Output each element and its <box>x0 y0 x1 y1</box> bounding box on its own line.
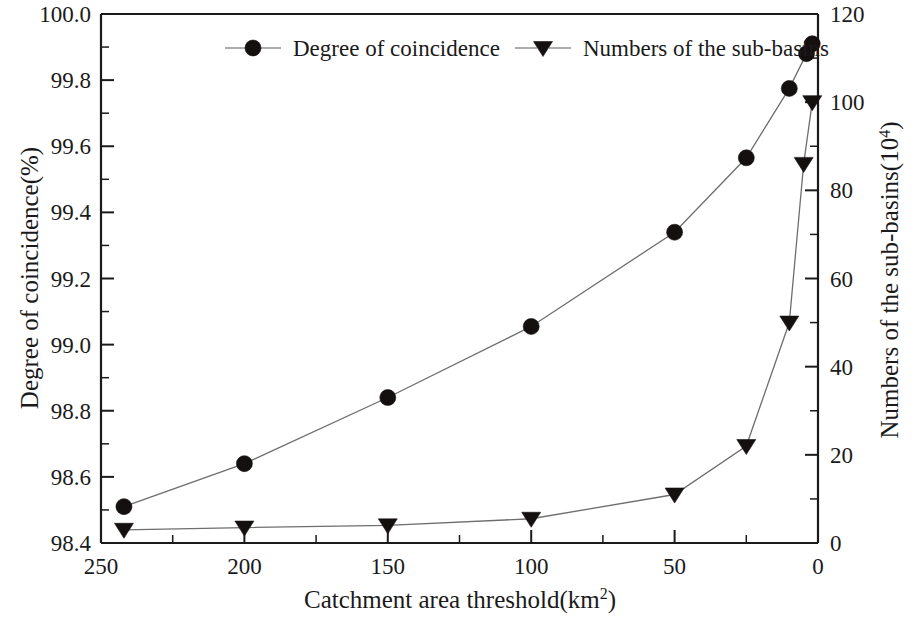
left-tick-label: 98.8 <box>51 399 91 424</box>
legend-label: Degree of coincidence <box>293 36 500 61</box>
x-axis-title: Catchment area threshold(km2) <box>304 585 616 614</box>
left-tick-label: 99.4 <box>51 200 92 225</box>
series-line <box>124 44 812 507</box>
data-point-triangle-down <box>522 512 541 527</box>
data-point-circle <box>380 390 396 406</box>
x-axis-ticks: 250200150100500 <box>84 530 824 579</box>
right-tick-label: 120 <box>830 2 865 27</box>
series-line <box>124 102 812 530</box>
right-tick-label: 60 <box>830 267 853 292</box>
data-point-circle <box>781 80 797 96</box>
left-tick-label: 99.0 <box>51 333 91 358</box>
data-point-circle <box>667 224 683 240</box>
chart-svg: 98.498.698.899.099.299.499.699.8100.0 02… <box>0 0 916 622</box>
right-axis-title: Numbers of the sub-basins(104) <box>876 122 904 439</box>
left-tick-label: 100.0 <box>39 2 91 27</box>
data-point-triangle-down <box>235 521 254 536</box>
plot-frame <box>101 14 818 543</box>
right-tick-label: 100 <box>830 90 865 115</box>
left-tick-label: 98.6 <box>51 465 91 490</box>
left-axis-title: Degree of coincidence(%) <box>16 147 44 409</box>
chart-figure: 98.498.698.899.099.299.499.699.8100.0 02… <box>0 0 916 622</box>
data-point-triangle-down <box>794 157 813 172</box>
data-point-triangle-down <box>780 316 799 331</box>
data-point-triangle-down <box>378 519 397 534</box>
right-tick-label: 20 <box>830 443 853 468</box>
left-tick-label: 99.6 <box>51 134 91 159</box>
data-point-triangle-down <box>114 523 133 538</box>
right-tick-label: 0 <box>830 531 842 556</box>
legend-marker-triangle-down <box>534 42 553 57</box>
data-point-circle <box>116 499 132 515</box>
right-tick-label: 40 <box>830 355 853 380</box>
data-point-circle <box>523 318 539 334</box>
right-tick-label: 80 <box>830 178 853 203</box>
data-point-circle <box>236 456 252 472</box>
chart-legend: Degree of coincidenceNumbers of the sub-… <box>225 36 829 61</box>
x-tick-label: 150 <box>371 554 406 579</box>
left-axis-ticks: 98.498.698.899.099.299.499.699.8100.0 <box>39 2 114 556</box>
right-axis-ticks: 020406080100120 <box>805 2 865 556</box>
data-point-circle <box>738 150 754 166</box>
x-tick-label: 250 <box>84 554 119 579</box>
left-tick-label: 98.4 <box>51 531 92 556</box>
series-degree-of-coincidence <box>116 36 820 515</box>
left-tick-label: 99.8 <box>51 68 91 93</box>
x-tick-label: 50 <box>663 554 686 579</box>
x-tick-label: 0 <box>812 554 824 579</box>
x-tick-label: 200 <box>227 554 262 579</box>
x-tick-label: 100 <box>514 554 549 579</box>
legend-label: Numbers of the sub-basins <box>583 36 829 61</box>
data-series-layer <box>114 36 821 539</box>
legend-marker-circle <box>245 40 261 56</box>
data-point-triangle-down <box>737 440 756 455</box>
left-tick-label: 99.2 <box>51 267 91 292</box>
